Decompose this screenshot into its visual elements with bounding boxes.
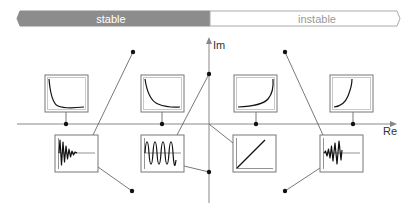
pole-dot (283, 50, 287, 54)
stable-label: stable (96, 13, 125, 25)
pole-dot (207, 72, 211, 76)
pole-dot (64, 122, 68, 126)
plot-slow-growth (234, 75, 277, 112)
pole-dot (254, 122, 258, 126)
plot-growing-oscillation (320, 135, 363, 172)
plot-slow-decay (141, 75, 184, 112)
plot-damped-oscillation (55, 135, 98, 172)
pole-dot (351, 122, 355, 126)
pole-dot (130, 189, 134, 193)
pole-dot (131, 50, 135, 54)
imag-axis-label: Im (213, 39, 225, 51)
instable-label: instable (298, 13, 336, 25)
pole-dot (160, 122, 164, 126)
pole-zero-diagram: stable instable Im Re (0, 0, 417, 214)
pole-dot (207, 170, 211, 174)
plot-fast-decay (45, 75, 88, 112)
plot-sustained-oscillation (141, 135, 184, 172)
stability-banner: stable instable (17, 11, 400, 26)
real-axis-label: Re (383, 125, 397, 137)
pole-dot (283, 189, 287, 193)
plot-fast-growth (330, 75, 373, 112)
plot-ramp (233, 135, 276, 172)
axes: Im Re (17, 37, 397, 203)
imag-axis-arrow-icon (206, 37, 212, 44)
